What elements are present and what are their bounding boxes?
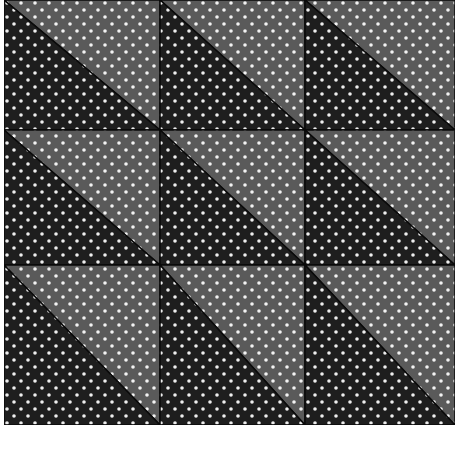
quilt-photo [4, 0, 455, 425]
quilt-blocks [4, 0, 455, 425]
